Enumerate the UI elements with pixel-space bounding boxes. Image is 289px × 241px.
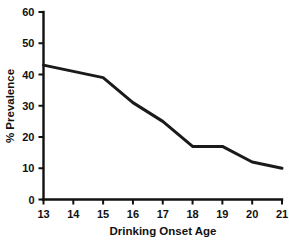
x-tick-label: 14 [67, 208, 80, 220]
line-chart: 0102030405060 131415161718192021 Drinkin… [0, 0, 289, 241]
x-axis-tick-labels: 131415161718192021 [37, 208, 288, 220]
x-tick-label: 18 [186, 208, 198, 220]
x-tick-label: 16 [127, 208, 139, 220]
y-tick-label: 0 [28, 194, 34, 206]
x-tick-label: 19 [216, 208, 228, 220]
y-tick-label: 10 [22, 162, 34, 174]
x-tick-label: 15 [97, 208, 109, 220]
y-tick-label: 60 [22, 6, 34, 18]
y-tick-label: 30 [22, 100, 34, 112]
chart-figure: 0102030405060 131415161718192021 Drinkin… [0, 0, 289, 241]
x-axis-title: Drinking Onset Age [110, 225, 217, 237]
y-tick-label: 40 [22, 69, 34, 81]
y-axis-title: % Prevalence [4, 69, 16, 143]
x-tick-label: 21 [276, 208, 288, 220]
x-tick-label: 20 [246, 208, 258, 220]
x-tick-label: 13 [37, 208, 49, 220]
x-tick-label: 17 [157, 208, 169, 220]
y-tick-label: 50 [22, 37, 34, 49]
y-tick-label: 20 [22, 131, 34, 143]
